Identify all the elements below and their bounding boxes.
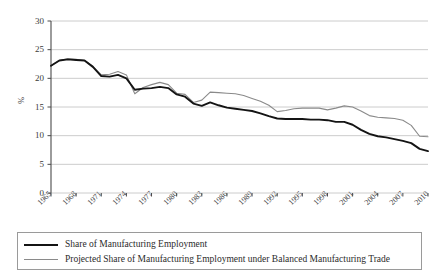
legend-label-series-1: Share of Manufacturing Employment bbox=[65, 239, 207, 250]
legend-swatch-black-line bbox=[24, 244, 58, 246]
chart-legend: Share of Manufacturing Employment Projec… bbox=[17, 232, 422, 270]
legend-item-share-of-manufacturing-employment: Share of Manufacturing Employment bbox=[24, 237, 415, 252]
chart-figure: % 051015202530 1965196819711974197719801… bbox=[0, 0, 443, 280]
chart-plot-area: % 051015202530 1965196819711974197719801… bbox=[0, 0, 443, 228]
legend-swatch-gray-line bbox=[24, 259, 58, 260]
line-chart-svg bbox=[0, 0, 443, 228]
series-line bbox=[51, 59, 428, 151]
legend-item-projected-share: Projected Share of Manufacturing Employm… bbox=[24, 252, 415, 267]
series-line bbox=[51, 59, 428, 137]
legend-label-series-2: Projected Share of Manufacturing Employm… bbox=[65, 254, 390, 265]
